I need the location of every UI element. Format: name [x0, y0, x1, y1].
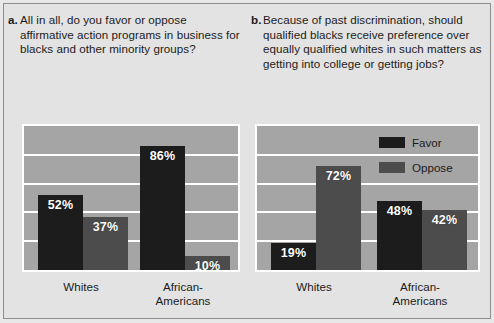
- question-marker-a: a.: [8, 13, 18, 28]
- gridline: [257, 183, 478, 185]
- legend-swatch-favor: [379, 137, 405, 148]
- bar-oppose-african-americans: 42%: [422, 210, 467, 270]
- bar-value-label: 19%: [271, 246, 316, 260]
- bar-value-label: 42%: [422, 213, 467, 227]
- x-axis-label: African-Americans: [355, 280, 485, 308]
- panel-b: b. Because of past discrimination, shoul…: [249, 4, 490, 319]
- bar-favor-whites: 19%: [271, 243, 316, 270]
- x-axis-label-line: Americans: [118, 294, 248, 308]
- bar-oppose-whites: 72%: [316, 166, 361, 270]
- bar-oppose-african-americans: 10%: [185, 256, 230, 270]
- panel-a: a. All in all, do you favor or oppose af…: [4, 4, 249, 319]
- legend-item-oppose: Oppose: [379, 155, 453, 180]
- figure-root: a. All in all, do you favor or oppose af…: [0, 0, 494, 323]
- x-axis-label: African-Americans: [118, 280, 248, 308]
- bar-value-label: 86%: [140, 149, 185, 163]
- legend: FavorOppose: [379, 130, 453, 180]
- legend-swatch-oppose: [379, 162, 405, 173]
- bar-favor-whites: 52%: [38, 195, 83, 270]
- bar-value-label: 52%: [38, 198, 83, 212]
- bar-oppose-whites: 37%: [83, 217, 128, 270]
- question-marker-b: b.: [251, 13, 261, 28]
- bar-value-label: 72%: [316, 169, 361, 183]
- bar-value-label: 10%: [185, 259, 230, 272]
- question-b: b. Because of past discrimination, shoul…: [263, 13, 484, 71]
- plot-area-b: FavorOppose 19%72%48%42%: [255, 124, 480, 272]
- question-a: a. All in all, do you favor or oppose af…: [20, 13, 241, 57]
- bar-favor-african-americans: 48%: [377, 201, 422, 270]
- gridline: [24, 183, 238, 185]
- legend-label: Oppose: [412, 161, 453, 174]
- question-text-b: Because of past discrimination, should q…: [263, 13, 484, 71]
- legend-item-favor: Favor: [379, 130, 453, 155]
- legend-label: Favor: [412, 136, 442, 149]
- bar-value-label: 48%: [377, 204, 422, 218]
- x-axis-label-line: Americans: [355, 294, 485, 308]
- gridline: [24, 154, 238, 156]
- chart-b: FavorOppose 19%72%48%42% WhitesAfrican-A…: [255, 124, 480, 272]
- x-axis-label-line: African-: [118, 280, 248, 294]
- plot-area-a: 52%37%86%10%: [22, 124, 240, 272]
- chart-a: 52%37%86%10% WhitesAfrican-Americans: [22, 124, 240, 272]
- bar-favor-african-americans: 86%: [140, 146, 185, 270]
- x-axis-label-line: African-: [355, 280, 485, 294]
- bar-value-label: 37%: [83, 220, 128, 234]
- question-text-a: All in all, do you favor or oppose affir…: [20, 13, 241, 57]
